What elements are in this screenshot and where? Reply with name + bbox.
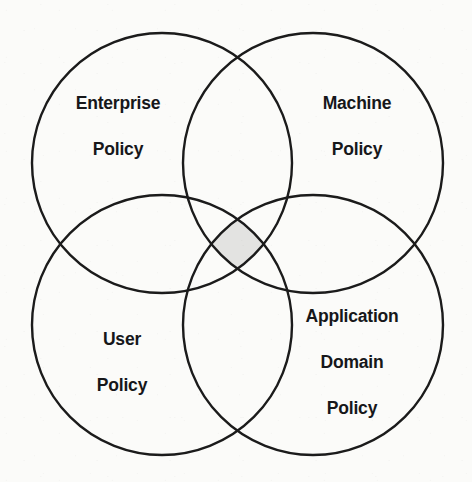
intersection-all-four	[150, 150, 330, 340]
venn-diagram-svg	[0, 0, 472, 482]
venn-diagram-canvas: Enterprise Policy Machine Policy User Po…	[0, 0, 472, 482]
